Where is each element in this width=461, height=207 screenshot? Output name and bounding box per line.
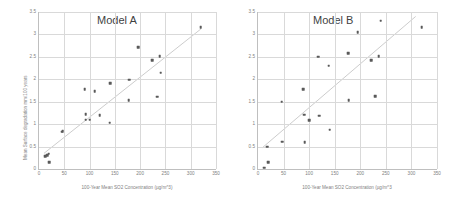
- y-axis-tick-label: 1: [33, 122, 36, 127]
- scatter-point: [156, 95, 159, 98]
- scatter-point: [137, 46, 140, 49]
- scatter-point: [109, 82, 112, 85]
- gridline-horizontal: [258, 102, 437, 103]
- y-axis-tick-label: 0.5: [30, 144, 36, 149]
- scatter-point: [281, 140, 284, 143]
- scatter-point: [200, 26, 203, 29]
- y-axis-tick-label: 0.5: [249, 144, 255, 149]
- scatter-point: [47, 152, 50, 155]
- scatter-point: [151, 59, 154, 62]
- scatter-point: [347, 99, 350, 102]
- gridline-horizontal: [258, 79, 437, 80]
- trendline-a: [39, 12, 216, 169]
- scatter-point: [303, 113, 306, 116]
- scatter-point: [280, 100, 283, 103]
- scatter-point: [127, 99, 130, 102]
- gridline-vertical: [309, 12, 310, 169]
- scatter-point: [61, 130, 64, 133]
- gridline-vertical: [335, 12, 336, 169]
- panel-model-b: Model B 00.511.522.533.50501001502002503…: [230, 0, 461, 207]
- gridline-vertical: [411, 12, 412, 169]
- gridline-vertical: [284, 12, 285, 169]
- y-axis-tick-label: 3.5: [249, 10, 255, 15]
- x-axis-tick-label: 250: [162, 172, 170, 177]
- scatter-point: [318, 114, 321, 117]
- gridline-vertical: [437, 12, 438, 169]
- gridline-horizontal: [39, 34, 216, 35]
- scatter-point: [84, 118, 87, 121]
- plot-area-model-b: Model B 00.511.522.533.50501001502002503…: [257, 12, 437, 170]
- two-panel-scatter-figure: Mean Surface degradation mm/100 years Mo…: [0, 0, 461, 207]
- scatter-point: [266, 145, 269, 148]
- scatter-point: [83, 88, 86, 91]
- scatter-point: [328, 128, 331, 131]
- x-axis-tick-label: 300: [408, 172, 416, 177]
- scatter-point: [302, 88, 305, 91]
- scatter-point: [93, 90, 96, 93]
- scatter-point: [159, 55, 162, 58]
- scatter-point: [347, 52, 350, 55]
- x-axis-tick-label: 200: [356, 172, 364, 177]
- x-axis-tick-label: 100: [305, 172, 313, 177]
- scatter-point: [327, 65, 330, 68]
- x-axis-tick-label: 300: [187, 172, 195, 177]
- scatter-point: [374, 95, 377, 98]
- gridline-vertical: [64, 12, 65, 169]
- x-axis-tick-label: 350: [433, 172, 441, 177]
- gridline-horizontal: [39, 102, 216, 103]
- scatter-point: [370, 59, 373, 62]
- x-axis-tick-label: 50: [62, 172, 67, 177]
- scatter-point: [308, 119, 311, 122]
- gridline-vertical: [386, 12, 387, 169]
- gridline-horizontal: [258, 147, 437, 148]
- gridline-horizontal: [258, 124, 437, 125]
- gridline-vertical: [115, 12, 116, 169]
- scatter-point: [303, 141, 306, 144]
- gridline-horizontal: [39, 12, 216, 13]
- y-axis-tick-label: 3: [33, 32, 36, 37]
- y-axis-tick-label: 2.5: [249, 55, 255, 60]
- gridline-vertical: [360, 12, 361, 169]
- x-axis-tick-label: 200: [136, 172, 144, 177]
- y-axis-tick-label: 0: [33, 167, 36, 172]
- panel-model-a: Mean Surface degradation mm/100 years Mo…: [0, 0, 230, 207]
- y-axis-tick-label: 0: [252, 167, 255, 172]
- scatter-point: [48, 161, 51, 164]
- scatter-point: [356, 31, 359, 34]
- scatter-point: [379, 19, 382, 22]
- gridline-horizontal: [39, 57, 216, 58]
- gridline-vertical: [140, 12, 141, 169]
- scatter-point: [267, 161, 270, 164]
- y-axis-tick-label: 2: [252, 77, 255, 82]
- plot-area-model-a: Model A 00.511.522.533.50501001502002503…: [38, 12, 216, 170]
- scatter-point: [420, 26, 423, 29]
- x-axis-label-a: 100-Year Mean SO2 Concentration (µg/m^3): [38, 186, 216, 191]
- gridline-horizontal: [39, 124, 216, 125]
- scatter-point: [84, 113, 87, 116]
- y-axis-tick-label: 1.5: [30, 99, 36, 104]
- scatter-point: [377, 55, 380, 58]
- scatter-point: [263, 166, 266, 169]
- gridline-horizontal: [39, 147, 216, 148]
- scatter-point: [317, 56, 320, 59]
- x-axis-tick-label: 50: [281, 172, 286, 177]
- gridline-vertical: [191, 12, 192, 169]
- gridline-horizontal: [258, 12, 437, 13]
- scatter-point: [128, 78, 131, 81]
- x-axis-tick-label: 150: [331, 172, 339, 177]
- x-axis-tick-label: 150: [111, 172, 119, 177]
- y-axis-tick-label: 2.5: [30, 55, 36, 60]
- scatter-point: [160, 71, 163, 74]
- x-axis-tick-label: 100: [86, 172, 94, 177]
- x-axis-tick-label: 250: [382, 172, 390, 177]
- gridline-horizontal: [258, 34, 437, 35]
- x-axis-tick-label: 350: [212, 172, 220, 177]
- y-axis-tick-label: 2: [33, 77, 36, 82]
- y-axis-tick-label: 3: [252, 32, 255, 37]
- scatter-point: [98, 114, 101, 117]
- gridline-vertical: [165, 12, 166, 169]
- x-axis-label-b: 100-Year Mean SO2 Concentration (µg/m^3: [257, 186, 437, 191]
- x-axis-tick-label: 0: [38, 172, 41, 177]
- y-axis-tick-label: 1: [252, 122, 255, 127]
- x-axis-tick-label: 0: [257, 172, 260, 177]
